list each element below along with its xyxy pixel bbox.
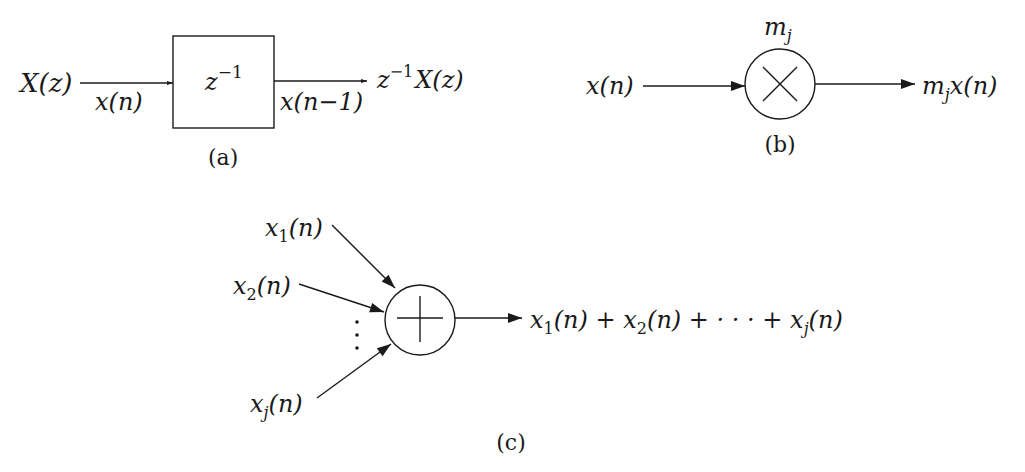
input-arrow-x2 <box>299 284 384 312</box>
block-diagram: X(z) x(n) z−1 x(n−1) z−1X(z) (a) x(n) mj… <box>0 0 1025 472</box>
output-signal-label: x(n−1) <box>280 88 363 116</box>
gain-label: mj <box>764 13 792 45</box>
caption-c: (c) <box>496 430 526 455</box>
panel-c-adder: x1(n) x2(n) xj(n) x1(n) + x2(n) + · · · … <box>233 214 843 455</box>
caption-b: (b) <box>764 132 795 157</box>
plus-icon <box>397 296 443 342</box>
panel-b-multiplier: x(n) mj mjx(n) (b) <box>586 13 997 157</box>
output-sum-label: x1(n) + x2(n) + · · · + xj(n) <box>530 306 843 338</box>
input-arrow-x1 <box>332 225 395 288</box>
input-arrow-xj <box>317 344 391 398</box>
ellipsis-vertical <box>355 320 359 350</box>
delay-block <box>173 36 274 128</box>
panel-a-delay: X(z) x(n) z−1 x(n−1) z−1X(z) (a) <box>18 36 464 170</box>
input-signal-label: x(n) <box>95 88 143 116</box>
input-label-Xz: X(z) <box>18 68 73 98</box>
delay-block-label: z−1 <box>204 62 243 96</box>
multiply-icon <box>763 67 797 101</box>
input-signal-label: x(n) <box>586 72 634 100</box>
input-label-x2: x2(n) <box>233 272 291 304</box>
output-label: mjx(n) <box>922 72 997 104</box>
input-label-x1: x1(n) <box>265 214 323 246</box>
output-label: z−1X(z) <box>376 62 464 94</box>
caption-a: (a) <box>208 145 238 170</box>
input-label-xj: xj(n) <box>250 390 303 422</box>
